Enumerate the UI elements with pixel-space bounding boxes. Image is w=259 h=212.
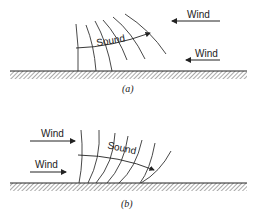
ground-b bbox=[10, 183, 247, 191]
sound-refraction-diagram: Sound Wind Wind (a) Sound Wind Wind (b) bbox=[0, 0, 259, 212]
wind-label-a-top: Wind bbox=[187, 9, 210, 20]
sound-label-b: Sound bbox=[107, 139, 138, 156]
panel-a: Sound Wind Wind (a) bbox=[10, 9, 247, 95]
wind-label-a-bottom: Wind bbox=[195, 48, 218, 59]
sound-ray-b bbox=[78, 155, 154, 170]
ground-a bbox=[10, 71, 247, 79]
wind-label-b-bottom: Wind bbox=[35, 159, 58, 170]
wind-label-b-top: Wind bbox=[41, 128, 64, 139]
panel-b: Sound Wind Wind (b) bbox=[10, 128, 247, 210]
caption-b: (b) bbox=[121, 198, 133, 210]
wavefronts-b bbox=[79, 130, 171, 183]
caption-a: (a) bbox=[122, 83, 134, 95]
